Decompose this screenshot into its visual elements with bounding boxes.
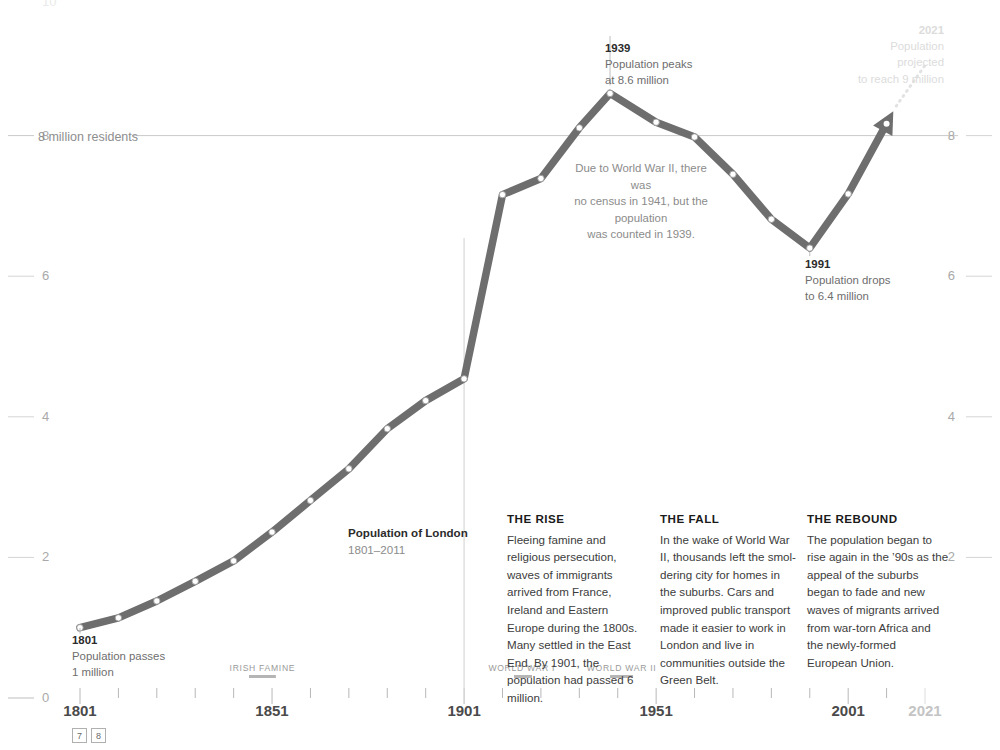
annotation-1991-year: 1991 bbox=[805, 256, 891, 272]
x-axis-year-label: 2001 bbox=[831, 702, 864, 719]
page-prev-button[interactable]: 7 bbox=[72, 728, 87, 743]
column-the-rise-heading: THE RISE bbox=[507, 510, 643, 528]
chart-title-block: Population of London 1801–2011 bbox=[348, 525, 468, 559]
x-axis-year-label: 1951 bbox=[639, 702, 672, 719]
data-point-marker bbox=[499, 191, 505, 197]
annotation-1991-line1: Population drops bbox=[805, 274, 891, 286]
column-the-fall-heading: THE FALL bbox=[660, 510, 796, 528]
annotation-1939-line1: Population peaks bbox=[605, 58, 692, 70]
y-axis-label-left: 6 bbox=[42, 268, 49, 283]
data-point-marker bbox=[422, 397, 428, 403]
data-point-marker bbox=[192, 578, 198, 584]
y-axis-label-left: 4 bbox=[42, 409, 49, 424]
column-the-rebound-heading: THE REBOUND bbox=[807, 510, 949, 528]
column-the-rebound-body: The population began to rise again in th… bbox=[807, 531, 949, 672]
annotation-2021-projection: 2021 Population projected to reach 9 mil… bbox=[852, 22, 944, 87]
census-note-line2: no census in 1941, but the population bbox=[574, 195, 708, 224]
data-point-marker bbox=[346, 466, 352, 472]
annotation-2021-year: 2021 bbox=[852, 22, 944, 38]
data-point-marker bbox=[384, 426, 390, 432]
annotation-1801: 1801 Population passes 1 million bbox=[72, 632, 165, 681]
annotation-2021-line1: Population projected bbox=[890, 40, 944, 68]
data-point-marker bbox=[845, 191, 851, 197]
data-point-marker bbox=[653, 119, 659, 125]
data-point-marker bbox=[307, 497, 313, 503]
column-the-fall-body: In the wake of World War II, thousands l… bbox=[660, 531, 796, 689]
data-point-marker bbox=[461, 376, 467, 382]
page-navigation[interactable]: 7 8 bbox=[72, 728, 106, 743]
y-axis-label-left: 10 bbox=[42, 0, 56, 9]
column-the-rebound: THE REBOUND The population began to rise… bbox=[807, 510, 949, 671]
x-axis-year-label: 1801 bbox=[63, 702, 96, 719]
data-point-marker bbox=[154, 598, 160, 604]
data-point-marker bbox=[730, 171, 736, 177]
annotation-1801-line2: 1 million bbox=[72, 666, 114, 678]
y-axis-label-right: 8 bbox=[948, 128, 955, 143]
page-title: Population of London bbox=[348, 525, 468, 542]
annotation-1991: 1991 Population drops to 6.4 million bbox=[805, 256, 891, 305]
data-point-marker bbox=[538, 175, 544, 181]
era-bar bbox=[249, 675, 276, 678]
chart-page: 10864208642180118511901195120012021IRISH… bbox=[0, 0, 1000, 750]
data-point-marker bbox=[230, 558, 236, 564]
era-label: IRISH FAMINE bbox=[230, 663, 296, 673]
column-the-fall: THE FALL In the wake of World War II, th… bbox=[660, 510, 796, 689]
y-axis-label-right: 4 bbox=[948, 409, 955, 424]
data-point-marker bbox=[607, 90, 613, 96]
x-axis-year-label: 1851 bbox=[255, 702, 288, 719]
data-point-marker bbox=[576, 125, 582, 131]
annotation-1991-line2: to 6.4 million bbox=[805, 290, 869, 302]
data-point-marker bbox=[269, 529, 275, 535]
page-next-button[interactable]: 8 bbox=[91, 728, 106, 743]
annotation-1939: 1939 Population peaks at 8.6 million bbox=[605, 40, 692, 89]
data-point-marker bbox=[768, 216, 774, 222]
census-note-line3: was counted in 1939. bbox=[587, 228, 695, 240]
era-marker: IRISH FAMINE bbox=[230, 663, 296, 678]
page-subtitle: 1801–2011 bbox=[348, 542, 468, 559]
y-axis-label-left: 2 bbox=[42, 549, 49, 564]
data-point-marker bbox=[691, 134, 697, 140]
data-point-marker bbox=[115, 615, 121, 621]
census-note-line1: Due to World War II, there was bbox=[575, 162, 707, 191]
line-arrowhead bbox=[873, 106, 903, 136]
column-the-rise: THE RISE Fleeing famine and religious pe… bbox=[507, 510, 643, 707]
data-point-marker bbox=[807, 245, 813, 251]
data-point-marker bbox=[884, 121, 890, 127]
y-axis-label-right: 6 bbox=[948, 268, 955, 283]
x-axis-year-label: 1901 bbox=[447, 702, 480, 719]
annotation-1801-line1: Population passes bbox=[72, 650, 165, 662]
reference-line-label: 8 million residents bbox=[38, 130, 138, 144]
annotation-1939-line2: at 8.6 million bbox=[605, 74, 669, 86]
census-note: Due to World War II, there was no census… bbox=[566, 160, 716, 243]
annotation-1801-year: 1801 bbox=[72, 632, 165, 648]
annotation-1939-year: 1939 bbox=[605, 40, 692, 56]
arrowhead-shape bbox=[873, 106, 903, 136]
column-the-rise-body: Fleeing famine and religious persecution… bbox=[507, 531, 643, 707]
y-axis-label-left: 0 bbox=[42, 690, 49, 705]
x-axis-year-label: 2021 bbox=[908, 702, 941, 719]
annotation-2021-line2: to reach 9 million bbox=[858, 73, 944, 85]
